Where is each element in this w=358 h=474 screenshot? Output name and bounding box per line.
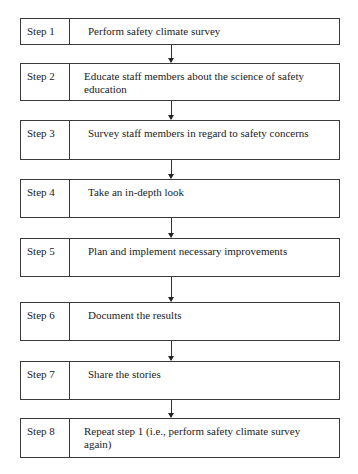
step-text: Document the results [70, 303, 339, 340]
step-text: Share the stories [70, 362, 339, 399]
step-label: Step 2 [21, 64, 70, 100]
arrow-down-icon [171, 341, 172, 360]
step-label: Step 7 [21, 362, 70, 399]
step-label: Step 4 [21, 180, 70, 217]
arrow-down-icon [171, 160, 172, 178]
arrow-down-icon [171, 45, 172, 62]
arrow-down-icon [171, 400, 172, 417]
step-2-box: Step 2 Educate staff members about the s… [20, 63, 340, 101]
step-text: Educate staff members about the science … [70, 64, 339, 100]
step-8-box: Step 8 Repeat step 1 (i.e., perform safe… [20, 418, 340, 458]
step-label: Step 3 [21, 121, 70, 159]
step-text: Perform safety climate survey [70, 19, 339, 44]
step-label: Step 1 [21, 19, 70, 44]
step-1-box: Step 1 Perform safety climate survey [20, 18, 340, 45]
arrow-down-icon [171, 277, 172, 301]
step-6-box: Step 6 Document the results [20, 302, 340, 341]
step-label: Step 8 [21, 419, 70, 457]
step-text: Plan and implement necessary improvement… [70, 239, 339, 276]
step-4-box: Step 4 Take an in-depth look [20, 179, 340, 218]
step-text: Repeat step 1 (i.e., perform safety clim… [70, 419, 339, 457]
step-3-box: Step 3 Survey staff members in regard to… [20, 120, 340, 160]
step-label: Step 6 [21, 303, 70, 340]
arrow-down-icon [171, 101, 172, 119]
arrow-down-icon [171, 218, 172, 237]
step-text: Take an in-depth look [70, 180, 339, 217]
step-text: Survey staff members in regard to safety… [70, 121, 339, 159]
step-label: Step 5 [21, 239, 70, 276]
step-5-box: Step 5 Plan and implement necessary impr… [20, 238, 340, 277]
step-7-box: Step 7 Share the stories [20, 361, 340, 400]
